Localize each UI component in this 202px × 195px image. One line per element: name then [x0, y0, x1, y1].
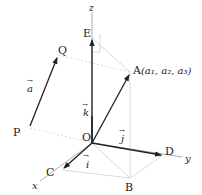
y-axis-label: y: [184, 153, 191, 164]
vector-j-label-group: → j: [119, 127, 125, 144]
point-C-label: C: [46, 166, 54, 179]
vector-OD-arrow: [92, 143, 161, 155]
guide-lines: [30, 34, 163, 178]
x-axis-label: x: [32, 180, 38, 191]
z-axis-label: z: [88, 3, 94, 13]
vector-i-label: i: [86, 159, 89, 170]
guide-Q-A: [58, 55, 130, 72]
point-A-label: A(a₁, a₂, a₃): [132, 64, 191, 77]
vector-k-label-group: → k: [82, 101, 89, 118]
point-Q-label: Q: [58, 44, 67, 57]
point-A-coords: (a₁, a₂, a₃): [141, 65, 192, 76]
point-B-label: B: [125, 181, 133, 194]
vector-i-label-group: → i: [83, 152, 89, 170]
point-P-label: P: [13, 126, 21, 139]
vectors: [30, 40, 161, 168]
point-E-label: E: [83, 27, 91, 40]
point-D-label: D: [165, 145, 174, 158]
axes: [40, 12, 182, 181]
vector-k-label: k: [83, 107, 89, 118]
point-O-label: O: [82, 131, 91, 144]
vector-diagram: z y x E Q P O C B D A(a₁, a₂, a₃) → a → …: [0, 0, 202, 195]
guide-D-B: [130, 155, 163, 178]
vector-a-label-group: → a: [27, 77, 33, 94]
vector-a-label: a: [27, 83, 33, 94]
guide-E-A: [92, 38, 130, 72]
vector-a-arrow: [30, 58, 57, 126]
guide-C-B: [62, 170, 130, 178]
